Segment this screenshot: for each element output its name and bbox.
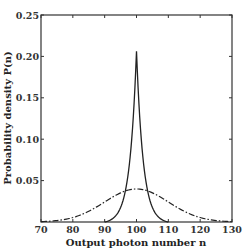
x-tick-label: 90 (98, 224, 112, 235)
series-broad-dashdot (41, 189, 232, 222)
chart: 7080901001101201300.050.100.150.200.25 O… (0, 0, 250, 252)
y-axis-label: Probability density P(n) (2, 51, 13, 184)
x-axis-label: Output photon number n (66, 237, 207, 248)
x-tick-label: 80 (66, 224, 80, 235)
plot-border (41, 15, 232, 222)
x-tick-label: 70 (34, 224, 48, 235)
x-tick-label: 120 (190, 224, 210, 235)
y-tick-label: 0.10 (16, 134, 40, 145)
series-narrow-solid (105, 51, 169, 222)
y-tick-label: 0.15 (16, 92, 39, 103)
data-series (41, 51, 232, 222)
plot-frame (41, 15, 232, 222)
axis-ticks (41, 15, 232, 222)
y-tick-label: 0.05 (16, 175, 39, 186)
y-tick-label: 0.20 (16, 51, 40, 62)
x-tick-label: 110 (158, 224, 178, 235)
x-tick-label: 130 (222, 224, 242, 235)
x-tick-label: 100 (127, 224, 147, 235)
y-tick-label: 0.25 (16, 10, 39, 21)
axis-tick-labels: 7080901001101201300.050.100.150.200.25 (16, 10, 242, 236)
